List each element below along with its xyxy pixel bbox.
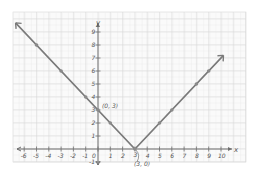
graph-canvas: -6-5-4-3-2-1012345678910-1123456789 (0, … bbox=[0, 0, 259, 188]
data-point bbox=[96, 108, 100, 112]
svg-text:10: 10 bbox=[218, 152, 226, 159]
svg-text:6: 6 bbox=[170, 152, 174, 159]
svg-text:4: 4 bbox=[92, 93, 96, 100]
svg-text:5: 5 bbox=[92, 80, 96, 87]
svg-text:1: 1 bbox=[109, 152, 113, 159]
y-intercept-label: (0, 3) bbox=[102, 102, 118, 109]
svg-text:-1: -1 bbox=[82, 152, 88, 159]
data-point bbox=[59, 69, 63, 73]
data-point bbox=[207, 69, 211, 73]
data-point bbox=[195, 82, 199, 86]
data-point bbox=[158, 121, 162, 125]
data-point bbox=[35, 43, 39, 47]
svg-text:7: 7 bbox=[92, 54, 96, 61]
data-point bbox=[170, 108, 174, 112]
svg-text:-1: -1 bbox=[89, 158, 95, 165]
svg-text:-2: -2 bbox=[70, 152, 76, 159]
svg-text:-3: -3 bbox=[58, 152, 64, 159]
y-axis-label: y bbox=[95, 19, 101, 27]
svg-text:2: 2 bbox=[121, 152, 125, 159]
svg-text:9: 9 bbox=[207, 152, 211, 159]
vertex-label: (3, 0) bbox=[134, 160, 150, 167]
svg-text:9: 9 bbox=[92, 28, 96, 35]
svg-text:-4: -4 bbox=[45, 152, 51, 159]
grid bbox=[13, 12, 246, 162]
svg-text:8: 8 bbox=[92, 41, 96, 48]
svg-text:3: 3 bbox=[133, 151, 137, 158]
svg-text:7: 7 bbox=[183, 152, 187, 159]
svg-text:2: 2 bbox=[92, 119, 96, 126]
svg-text:5: 5 bbox=[158, 152, 162, 159]
svg-text:1: 1 bbox=[92, 132, 96, 139]
svg-text:4: 4 bbox=[146, 152, 150, 159]
data-point bbox=[133, 147, 137, 151]
data-point bbox=[109, 121, 113, 125]
svg-text:6: 6 bbox=[92, 67, 96, 74]
svg-text:8: 8 bbox=[195, 152, 199, 159]
x-axis-label: x bbox=[233, 146, 239, 154]
svg-text:-6: -6 bbox=[21, 152, 27, 159]
svg-text:-5: -5 bbox=[33, 152, 39, 159]
data-point bbox=[84, 95, 88, 99]
